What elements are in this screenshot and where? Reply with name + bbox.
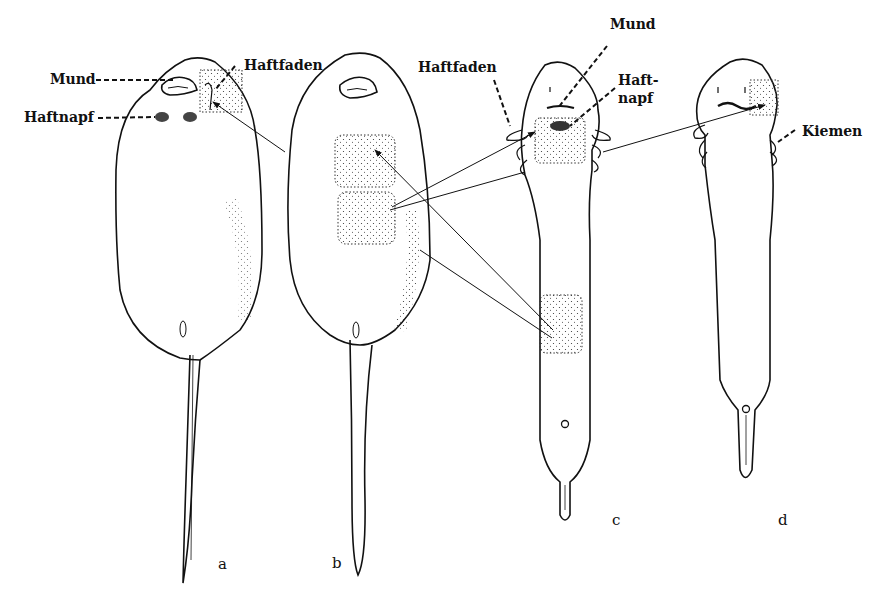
region-c-lower [540, 295, 582, 353]
label-haftnapf-a: Haftnapf [24, 110, 94, 124]
label-mund-c: Mund [610, 17, 656, 31]
stage-label-b: b [332, 554, 342, 572]
label-kiemen-d: Kiemen [802, 124, 862, 138]
label-haftfaden-a: Haftfaden [244, 58, 323, 72]
region-d [750, 80, 778, 115]
correspondence-arrows [213, 102, 765, 338]
label-haftnapf-c-line1: Haft- [618, 73, 659, 87]
haftfaden-region-a [200, 70, 242, 112]
stage-label-d: d [778, 511, 788, 529]
haftnapf-a-right [183, 112, 197, 122]
label-mund-a: Mund [50, 72, 96, 86]
label-haftfaden-c: Haftfaden [418, 60, 497, 74]
region-b-lower [338, 192, 395, 244]
embryo-stage-a [116, 58, 262, 583]
embryo-stages-illustration [0, 0, 876, 599]
label-haftnapf-c-line2: napf [618, 91, 653, 105]
haftnapf-a-left [155, 112, 169, 122]
stage-label-c: c [612, 511, 620, 529]
haftnapf-c [550, 121, 570, 131]
stage-label-a: a [218, 555, 227, 573]
